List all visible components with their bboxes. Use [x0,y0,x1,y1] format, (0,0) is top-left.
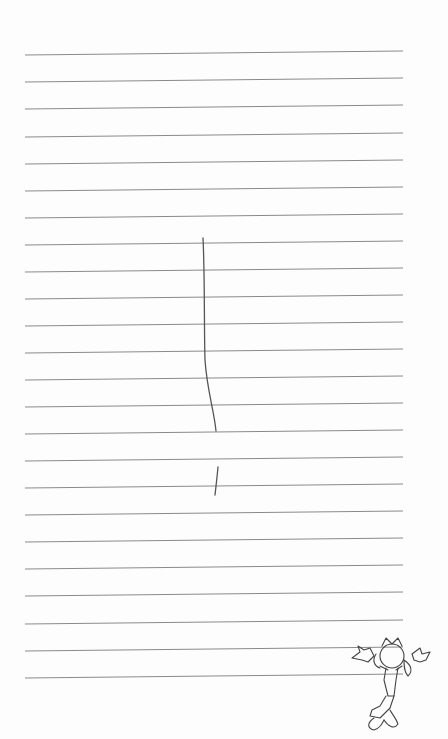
ruled-line [25,430,403,434]
ruled-line [25,241,403,245]
paper-canvas [0,0,448,739]
ruled-lines [25,51,403,678]
ruled-line [25,592,403,596]
ruled-line [25,376,403,380]
ruled-line [25,565,403,569]
ruled-line [25,268,403,272]
ruled-line [25,484,403,488]
short-stroke [215,467,218,495]
ruled-line [25,457,403,461]
ruled-line [25,133,403,137]
ruled-line [25,538,403,542]
ruled-line [25,647,403,651]
ruled-line [25,105,403,109]
ruled-line [25,187,403,191]
ruled-line [25,674,403,678]
long-vertical-stroke [203,238,216,431]
ruled-line [25,620,403,624]
ruled-line [25,78,403,82]
ruled-line [25,214,403,218]
ruled-line [25,349,403,353]
lined-paper [0,0,448,739]
ruled-line [25,295,403,299]
cartoon-doodle-icon [352,638,430,730]
ruled-line [25,403,403,407]
ruled-line [25,511,403,515]
ruled-line [25,51,403,55]
ruled-line [25,322,403,326]
ruled-line [25,160,403,164]
pencil-strokes [203,238,218,495]
